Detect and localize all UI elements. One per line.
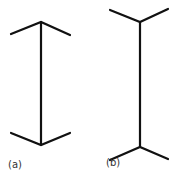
figure-b-label: (b) (106, 157, 120, 168)
figure-a-label: (a) (8, 159, 22, 170)
figure-a (11, 22, 70, 145)
muller-lyer-diagram (0, 0, 183, 185)
figure-b (110, 9, 168, 160)
figure-b-top-fins (110, 9, 168, 22)
